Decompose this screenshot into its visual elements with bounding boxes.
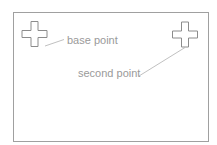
base-point-label: base point <box>67 34 118 46</box>
second-point-label: second point <box>78 67 140 79</box>
diagram-canvas: base point second point <box>0 0 217 145</box>
